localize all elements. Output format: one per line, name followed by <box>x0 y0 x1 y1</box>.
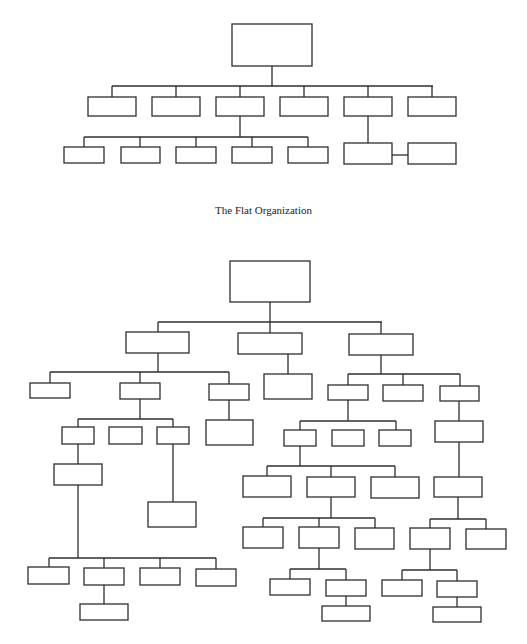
tall-org-position-box <box>382 580 422 596</box>
tall-org-position-box <box>328 385 368 400</box>
tall-org-position-box <box>120 383 160 399</box>
tall-organization-chart <box>28 261 506 622</box>
tall-org-position-box <box>270 579 310 595</box>
tall-org-position-box <box>326 580 366 596</box>
tall-org-position-box <box>230 261 310 302</box>
flat-org-position-box <box>232 24 312 66</box>
tall-org-position-box <box>243 527 283 548</box>
tall-org-position-box <box>126 332 189 353</box>
tall-org-position-box <box>371 477 419 498</box>
flat-org-position-box <box>408 97 456 116</box>
tall-org-position-box <box>264 374 312 399</box>
flat-org-position-box <box>152 97 200 116</box>
flat-org-position-box <box>176 147 216 163</box>
flat-org-position-box <box>344 143 392 164</box>
flat-org-position-box <box>288 147 328 163</box>
tall-org-position-box <box>299 527 339 548</box>
flat-org-position-box <box>88 97 136 116</box>
flat-org-position-box <box>64 147 104 163</box>
tall-org-position-box <box>284 430 316 446</box>
tall-org-position-box <box>322 606 370 621</box>
flat-org-position-box <box>280 97 328 116</box>
flat-org-position-box <box>121 147 160 163</box>
tall-org-position-box <box>157 427 189 444</box>
flat-organization-chart <box>64 24 456 164</box>
flat-org-position-box <box>344 97 392 116</box>
tall-org-position-box <box>437 581 477 597</box>
tall-org-position-box <box>30 383 70 398</box>
tall-org-position-box <box>332 430 364 446</box>
tall-org-position-box <box>466 529 506 549</box>
flat-org-position-box <box>408 143 456 164</box>
tall-org-position-box <box>379 430 411 446</box>
tall-org-position-box <box>80 604 128 620</box>
tall-org-position-box <box>440 386 479 401</box>
flat-organization-caption: The Flat Organization <box>0 204 527 216</box>
tall-org-position-box <box>148 502 196 527</box>
tall-org-position-box <box>109 427 142 444</box>
tall-org-position-box <box>433 607 481 622</box>
tall-org-position-box <box>435 421 483 442</box>
flat-org-position-box <box>232 147 272 163</box>
tall-org-position-box <box>209 384 249 400</box>
tall-org-position-box <box>206 420 253 445</box>
tall-org-position-box <box>243 476 291 497</box>
tall-org-position-box <box>62 427 94 444</box>
tall-org-position-box <box>383 385 423 401</box>
tall-org-position-box <box>355 528 394 549</box>
tall-org-position-box <box>349 334 413 355</box>
tall-org-position-box <box>196 569 236 586</box>
tall-org-position-box <box>140 568 180 585</box>
tall-org-position-box <box>307 477 355 497</box>
flat-org-position-box <box>216 97 264 116</box>
tall-org-position-box <box>84 568 124 585</box>
org-chart-canvas <box>0 0 527 644</box>
tall-org-position-box <box>238 333 302 354</box>
tall-org-position-box <box>54 464 102 485</box>
tall-org-position-box <box>28 567 69 584</box>
tall-org-position-box <box>410 528 450 549</box>
tall-org-position-box <box>434 477 482 497</box>
